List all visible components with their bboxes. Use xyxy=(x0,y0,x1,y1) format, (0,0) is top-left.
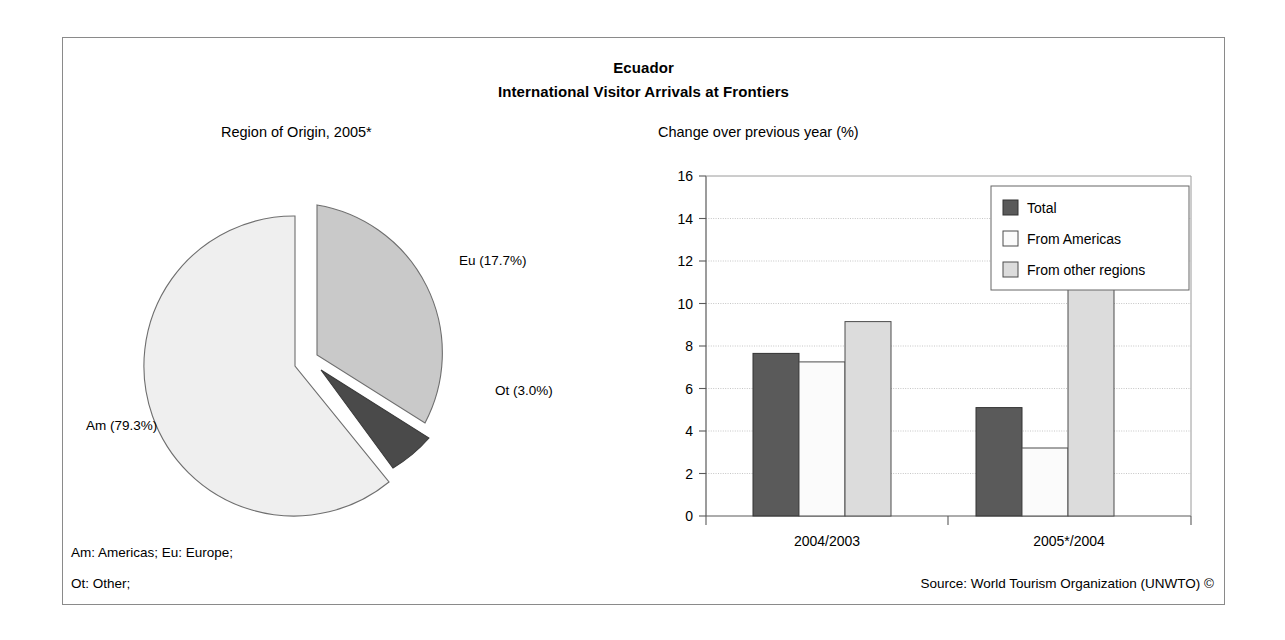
bar-total-2004 xyxy=(753,353,799,516)
legend-label-from-americas: From Americas xyxy=(1027,231,1121,247)
pie-label-europe: Eu (17.7%) xyxy=(459,253,527,268)
y-tick-16: 16 xyxy=(677,168,693,184)
chart-figure-frame: Ecuador International Visitor Arrivals a… xyxy=(62,37,1225,605)
y-tick-6: 6 xyxy=(685,381,693,397)
bar-from-americas-2004 xyxy=(799,362,845,516)
pie-label-americas: Am (79.3%) xyxy=(86,418,157,433)
bar-from-other-regions-2004 xyxy=(845,322,891,516)
x-category-2004-2003: 2004/2003 xyxy=(794,533,860,549)
y-tick-2: 2 xyxy=(685,466,693,482)
y-tick-marks xyxy=(699,176,706,516)
y-tick-12: 12 xyxy=(677,253,693,269)
bar-chart: 0 2 4 6 8 10 12 14 16 xyxy=(631,146,1211,566)
legend-swatch-from-americas xyxy=(1003,231,1018,246)
bar-chart-subtitle: Change over previous year (%) xyxy=(658,124,859,140)
legend-label-total: Total xyxy=(1027,200,1057,216)
footnote-abbreviations-line1: Am: Americas; Eu: Europe; xyxy=(71,545,233,560)
y-tick-8: 8 xyxy=(685,338,693,354)
x-category-2005-2004: 2005*/2004 xyxy=(1033,533,1105,549)
bar-chart-svg: 0 2 4 6 8 10 12 14 16 xyxy=(631,146,1211,566)
x-tick-marks xyxy=(706,516,1191,525)
figure-title-main: International Visitor Arrivals at Fronti… xyxy=(63,83,1224,100)
y-tick-10: 10 xyxy=(677,296,693,312)
y-tick-14: 14 xyxy=(677,211,693,227)
pie-label-other: Ot (3.0%) xyxy=(495,383,553,398)
legend-swatch-from-other-regions xyxy=(1003,262,1018,277)
pie-chart: Eu (17.7%) Ot (3.0%) Am (79.3%) xyxy=(63,148,623,528)
bar-from-americas-2005 xyxy=(1022,448,1068,516)
legend-label-from-other-regions: From other regions xyxy=(1027,262,1145,278)
pie-chart-svg xyxy=(63,148,623,528)
legend-swatch-total xyxy=(1003,200,1018,215)
bar-total-2005 xyxy=(976,408,1022,516)
pie-chart-subtitle: Region of Origin, 2005* xyxy=(221,124,372,140)
bar-chart-legend: Total From Americas From other regions xyxy=(991,186,1189,290)
source-attribution: Source: World Tourism Organization (UNWT… xyxy=(920,576,1214,591)
y-tick-4: 4 xyxy=(685,423,693,439)
y-tick-0: 0 xyxy=(685,508,693,524)
footnote-abbreviations-line2: Ot: Other; xyxy=(71,576,130,591)
figure-title-country: Ecuador xyxy=(63,59,1224,76)
